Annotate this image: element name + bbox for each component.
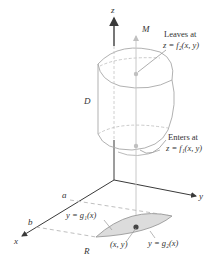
xy-point [133,224,138,229]
x-axis-label: x [13,236,18,246]
leaves-leader [138,50,166,72]
enters-label-1: Enters at [168,132,199,142]
enters-label-2: z = f₁(x, y) [165,143,202,153]
z-axis-label: z [110,5,115,15]
leaves-point [134,72,138,76]
x-axis [22,180,114,236]
g2-label: y = g₂(x) [147,238,179,248]
y-axis-label: y [198,191,203,201]
solid-label: D [83,96,91,106]
x-tick-a: a [62,190,67,200]
g1-label: y = g₁(x) [65,210,97,220]
y-axis [114,180,196,196]
point-label: (x, y) [110,239,128,249]
diagram-svg: z M Leaves at z = f₂(x, y) D Enters at z… [0,0,222,257]
enters-leader [140,140,166,153]
region-r [96,214,172,237]
region-label: R [83,246,90,256]
leaves-label-1: Leaves at [164,29,197,39]
diagram-canvas: z M Leaves at z = f₂(x, y) D Enters at z… [0,0,222,257]
line-m [134,36,138,220]
enters-point [134,144,138,148]
leaves-label-2: z = f₂(x, y) [162,40,199,50]
x-tick-b: b [28,217,33,227]
line-m-label: M [141,24,150,34]
